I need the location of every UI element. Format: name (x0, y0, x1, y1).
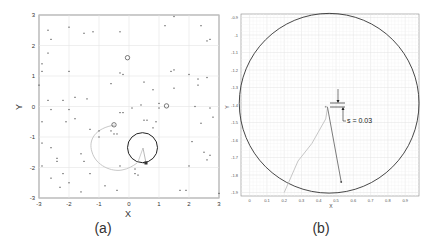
data-point (41, 143, 42, 144)
data-point (158, 103, 159, 104)
data-point (143, 120, 144, 121)
y-tick-label: -0.9 (231, 15, 239, 20)
x-tick-label: 0.6 (351, 198, 357, 203)
data-point (47, 100, 48, 101)
data-point (92, 31, 93, 32)
data-point (83, 33, 84, 34)
y-tick-label: 3 (32, 12, 36, 18)
y-tick-label: -1.6 (231, 138, 239, 143)
x-tick-label: 0.8 (385, 198, 391, 203)
data-point (116, 190, 117, 191)
y-tick-label: -2 (30, 165, 36, 171)
x-tick-label: -3 (36, 201, 42, 207)
data-point (209, 155, 210, 156)
data-point (62, 173, 63, 174)
data-point (110, 83, 111, 84)
data-point (209, 39, 210, 40)
x-tick-label: -2 (66, 201, 72, 207)
x-tick-label: 2 (187, 201, 191, 207)
x-tick-label: 0.4 (316, 198, 322, 203)
data-point (68, 109, 69, 110)
data-point (47, 53, 48, 54)
data-point (68, 71, 69, 72)
data-point (194, 106, 195, 107)
data-point (146, 120, 147, 121)
data-point (188, 165, 189, 166)
figure: -3-2-10123-3-2-10123 X Y (a) 00.10.20.30… (0, 0, 438, 242)
x-tick-label: 0 (127, 201, 131, 207)
data-point (74, 97, 75, 98)
data-point (206, 40, 207, 41)
y-tick-label: -1 (234, 33, 238, 38)
data-point (170, 71, 171, 72)
y-axis-label-a: Y (14, 104, 24, 110)
data-point (74, 118, 75, 119)
data-point (98, 136, 99, 137)
data-point (152, 89, 153, 90)
data-point (110, 130, 111, 131)
data-point (200, 25, 201, 26)
data-point (50, 39, 51, 40)
y-tick-label: -1.9 (231, 190, 239, 195)
y-tick-label: -1.4 (231, 103, 239, 108)
data-point (113, 133, 114, 134)
data-point (50, 109, 51, 110)
data-point (104, 185, 105, 186)
data-point (131, 107, 132, 108)
data-point (185, 190, 186, 191)
data-point (119, 112, 120, 113)
data-point (41, 63, 42, 64)
data-point (218, 193, 219, 194)
y-tick-label: -1.2 (231, 68, 239, 73)
panel-b: 00.10.20.30.40.50.60.70.80.9-0.9-1-1.1-1… (224, 13, 419, 236)
y-tick-label: 0 (32, 104, 36, 110)
data-point (89, 129, 90, 130)
data-point (68, 182, 69, 183)
data-point (122, 112, 123, 113)
data-point (197, 85, 198, 86)
x-tick-label: 0.2 (281, 198, 287, 203)
data-point (173, 16, 174, 17)
start-marker (325, 106, 327, 108)
x-tick-label: 1 (157, 201, 161, 207)
panel-a: -3-2-10123-3-2-10123 X Y (a) (14, 12, 221, 236)
data-point (152, 127, 153, 128)
data-point (200, 123, 201, 124)
y-tick-label: -1.8 (231, 173, 239, 178)
data-point (119, 165, 120, 166)
x-tick-label: 0.7 (368, 198, 374, 203)
x-axis-label-a: X (125, 209, 131, 219)
data-point (62, 100, 63, 101)
data-point (119, 72, 120, 73)
y-tick-label: -3 (30, 195, 36, 201)
data-point (206, 77, 207, 78)
data-point (116, 133, 117, 134)
x-tick-label: 3 (217, 201, 221, 207)
data-point (83, 161, 84, 162)
y-tick-label: -1.7 (231, 155, 239, 160)
x-tick-label: 0 (249, 198, 252, 203)
data-point (56, 158, 57, 159)
x-tick-label: 0.9 (402, 198, 408, 203)
x-tick-label: 0.1 (264, 198, 270, 203)
data-point (80, 191, 81, 192)
data-point (56, 161, 57, 162)
caption-a: (a) (94, 220, 111, 236)
data-point (188, 74, 189, 75)
data-point (173, 69, 174, 70)
caption-b: (b) (312, 220, 329, 236)
x-axis-label-b: X (329, 203, 333, 209)
data-point (134, 168, 135, 169)
data-point (89, 173, 90, 174)
data-point (65, 121, 66, 122)
spacing-label: s = 0.03 (347, 117, 372, 124)
endpoint-marker (340, 181, 342, 183)
y-tick-label: -1.3 (231, 85, 239, 90)
data-point (38, 85, 39, 86)
data-point (134, 173, 135, 174)
data-point (119, 31, 120, 32)
data-point (41, 71, 42, 72)
data-point (191, 141, 192, 142)
x-tick-label: 0.5 (333, 198, 339, 203)
data-point (155, 121, 156, 122)
